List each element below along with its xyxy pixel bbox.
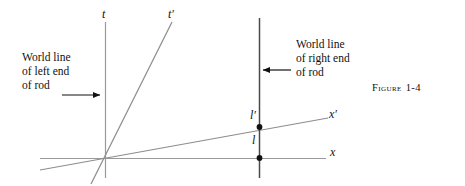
x-prime-axis-line bbox=[40, 118, 328, 170]
left-annotation-line-1: World line bbox=[22, 50, 71, 64]
figure-caption: Figure1-4 bbox=[372, 82, 421, 93]
left-annotation-line-2: of left end bbox=[22, 64, 71, 78]
left-annotation-line-3: of rod bbox=[22, 78, 71, 92]
axis-label-t-prime: t′ bbox=[168, 7, 174, 22]
axis-label-x: x bbox=[330, 145, 335, 160]
point-label-l-prime: l′ bbox=[250, 108, 256, 123]
right-annotation-line-3: of rod bbox=[296, 65, 350, 79]
axis-label-t: t bbox=[102, 7, 105, 22]
figure-container: World line of left end of rod World line… bbox=[0, 0, 465, 186]
axis-label-x-prime: x′ bbox=[329, 107, 337, 122]
right-annotation-line-2: of right end bbox=[296, 51, 350, 65]
point-label-l: l bbox=[252, 133, 255, 148]
t-prime-axis-line bbox=[91, 22, 172, 184]
point-marker-l-prime bbox=[257, 124, 263, 130]
right-annotation-line-1: World line bbox=[296, 37, 350, 51]
point-marker-l bbox=[257, 155, 263, 161]
spacetime-diagram bbox=[0, 0, 465, 186]
figure-caption-number: 1-4 bbox=[406, 82, 421, 93]
left-worldline-annotation: World line of left end of rod bbox=[22, 50, 71, 93]
right-worldline-annotation: World line of right end of rod bbox=[296, 37, 350, 80]
figure-caption-word: Figure bbox=[372, 82, 402, 93]
